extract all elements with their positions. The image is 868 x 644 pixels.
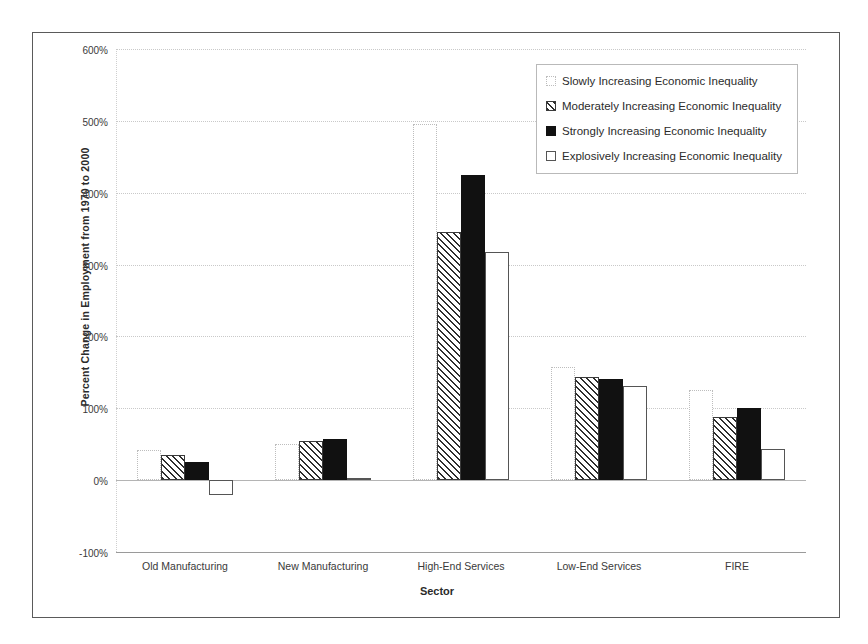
y-tick-label: 200%: [82, 332, 108, 343]
chart-legend: Slowly Increasing Economic InequalityMod…: [536, 64, 798, 174]
bar: [713, 417, 737, 480]
bar-group: [275, 49, 371, 552]
y-tick-label: 300%: [82, 260, 108, 271]
bar: [689, 390, 713, 480]
bar: [275, 444, 299, 480]
bar: [551, 367, 575, 481]
bar: [137, 450, 161, 480]
bar: [413, 124, 437, 480]
bar: [209, 480, 233, 494]
legend-item: Explosively Increasing Economic Inequali…: [546, 149, 787, 164]
bar: [599, 379, 623, 480]
legend-swatch-icon: [546, 126, 556, 136]
y-tick-label: 400%: [82, 188, 108, 199]
legend-swatch-icon: [546, 76, 556, 86]
gridline--100: -100%: [116, 552, 806, 553]
bar: [737, 408, 761, 481]
x-axis-title: Sector: [33, 585, 841, 597]
bar: [437, 232, 461, 480]
x-tick-label: FIRE: [668, 560, 806, 572]
y-tick-label: -100%: [79, 548, 108, 559]
bar: [761, 449, 785, 481]
bar: [485, 252, 509, 481]
legend-label: Explosively Increasing Economic Inequali…: [562, 149, 782, 164]
y-tick-label: 0%: [94, 476, 108, 487]
legend-label: Moderately Increasing Economic Inequalit…: [562, 99, 781, 114]
legend-swatch-icon: [546, 101, 556, 111]
legend-swatch-icon: [546, 151, 556, 161]
x-tick-label: High-End Services: [392, 560, 530, 572]
bar: [575, 377, 599, 480]
y-tick-label: 500%: [82, 116, 108, 127]
x-tick-label: Old Manufacturing: [116, 560, 254, 572]
bar: [299, 441, 323, 481]
bar: [623, 386, 647, 480]
legend-label: Strongly Increasing Economic Inequality: [562, 124, 767, 139]
bar-group: [413, 49, 509, 552]
legend-item: Slowly Increasing Economic Inequality: [546, 74, 787, 89]
y-axis-title: Percent Change in Employment from 1970 t…: [79, 77, 91, 477]
x-tick-label: New Manufacturing: [254, 560, 392, 572]
bar: [461, 175, 485, 480]
bar-group: [137, 49, 233, 552]
legend-label: Slowly Increasing Economic Inequality: [562, 74, 758, 89]
legend-item: Moderately Increasing Economic Inequalit…: [546, 99, 787, 114]
figure-frame: Percent Change in Employment from 1970 t…: [32, 32, 840, 618]
bar: [161, 455, 185, 480]
legend-item: Strongly Increasing Economic Inequality: [546, 124, 787, 139]
bar: [185, 462, 209, 480]
y-tick-label: 100%: [82, 404, 108, 415]
x-tick-label: Low-End Services: [530, 560, 668, 572]
bar: [347, 478, 371, 480]
y-tick-label: 600%: [82, 45, 108, 56]
bar: [323, 439, 347, 480]
